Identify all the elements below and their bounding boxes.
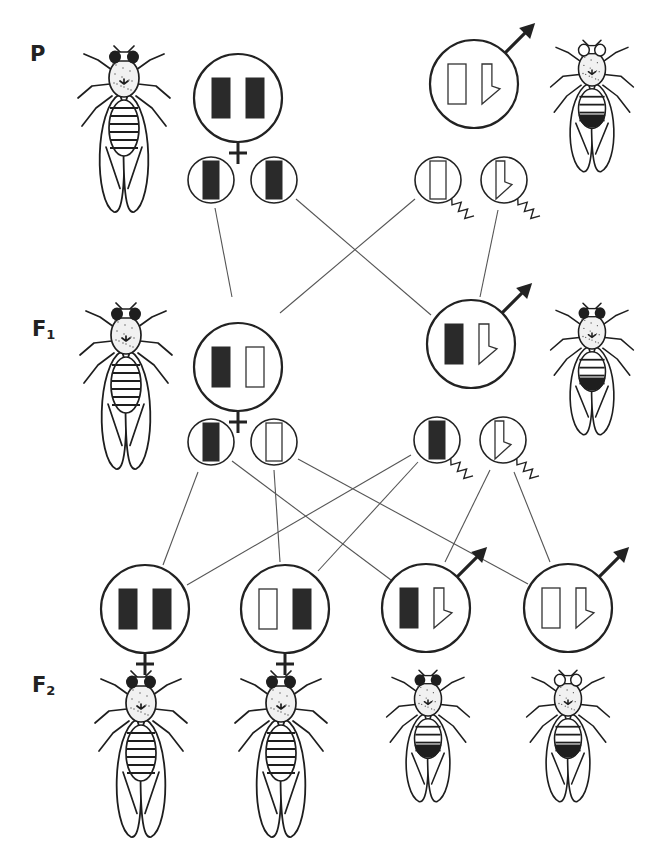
cross-diagram-canvas	[0, 0, 657, 859]
red-eye-icon	[111, 308, 123, 321]
egg-P-egg-2	[251, 157, 297, 203]
genotype-F1-female	[194, 323, 282, 433]
red-eye-icon	[144, 676, 156, 689]
genotype-circle	[194, 54, 282, 142]
female-symbol-icon	[229, 411, 247, 433]
sperm-P-sperm-2	[481, 157, 540, 218]
x-chromosome-white-allele	[266, 423, 282, 461]
sperm-tail-icon	[518, 198, 540, 218]
red-eye-icon	[129, 308, 141, 321]
white-eye-icon	[595, 44, 606, 56]
genotype-circle	[101, 565, 189, 653]
sperm-tail-icon	[451, 458, 473, 478]
generation-label-subscript: 1	[46, 327, 55, 342]
female-fly-red-eye-icon	[95, 671, 187, 837]
x-chromosome-red-allele	[246, 78, 264, 118]
female-fly-red-eye-icon	[235, 671, 327, 837]
male-symbol-arrow-icon	[505, 23, 535, 53]
x-chromosome-white-allele	[542, 588, 560, 628]
inheritance-line	[514, 472, 550, 562]
red-eye-icon	[579, 307, 590, 319]
generation-label-f2: F2	[32, 673, 55, 698]
male-fly-white-eye-icon	[551, 40, 634, 172]
x-chromosome-red-allele	[293, 589, 311, 629]
sperm-tail-icon	[517, 458, 539, 478]
x-chromosome-red-allele	[266, 161, 282, 199]
genotype-P-female	[194, 54, 282, 164]
genotype-P-male	[430, 23, 535, 128]
red-eye-icon	[284, 676, 296, 689]
generation-label-text: F	[32, 317, 46, 341]
male-fly-white-eye-icon	[527, 670, 610, 802]
genotype-F1-male	[427, 283, 532, 388]
white-eye-icon	[555, 674, 566, 686]
x-chromosome-red-allele	[212, 78, 230, 118]
x-chromosome-white-allele	[448, 64, 466, 104]
male-symbol-arrow-icon	[502, 283, 532, 313]
inheritance-line	[480, 210, 498, 297]
x-chromosome-white-allele	[246, 347, 264, 387]
genotype-circle	[524, 564, 612, 652]
generation-label-text: P	[30, 42, 45, 66]
sperm-tail-icon	[452, 198, 474, 218]
red-eye-icon	[595, 307, 606, 319]
male-fly-red-eye-icon	[551, 303, 634, 435]
male-symbol-arrow-icon	[457, 547, 487, 577]
x-chromosome-red-allele	[429, 421, 445, 459]
x-chromosome-red-allele	[400, 588, 418, 628]
genotype-circle	[427, 300, 515, 388]
red-eye-icon	[126, 676, 138, 689]
sperm-F1-sperm-2	[480, 417, 539, 478]
inheritance-line	[274, 470, 280, 562]
female-fly-red-eye-icon	[80, 303, 172, 469]
x-chromosome-red-allele	[445, 324, 463, 364]
genotype-circle	[430, 40, 518, 128]
egg-P-egg-1	[188, 157, 234, 203]
x-chromosome-white-allele	[430, 161, 446, 199]
inheritance-diagram: P F1 F2	[0, 0, 657, 859]
generation-label-subscript: 2	[46, 683, 55, 698]
generation-label-f1: F1	[32, 317, 55, 342]
genotype-F2-male-2	[524, 547, 629, 652]
inheritance-line	[232, 461, 391, 580]
red-eye-icon	[127, 51, 139, 64]
genotype-F2-male-1	[382, 547, 487, 652]
inheritance-line	[163, 472, 198, 565]
genotype-F2-female-1	[101, 565, 189, 675]
x-chromosome-red-allele	[119, 589, 137, 629]
red-eye-icon	[431, 674, 442, 686]
genotype-circle	[241, 565, 329, 653]
sperm-P-sperm-1	[415, 157, 474, 218]
fly-illustrations	[78, 40, 633, 837]
red-eye-icon	[415, 674, 426, 686]
inheritance-line	[280, 199, 415, 313]
red-eye-icon	[266, 676, 278, 689]
sperm-F1-sperm-1	[414, 417, 473, 478]
white-eye-icon	[571, 674, 582, 686]
inheritance-line	[187, 455, 411, 585]
female-symbol-icon	[229, 142, 247, 164]
genotype-circles	[101, 23, 629, 675]
x-chromosome-red-allele	[212, 347, 230, 387]
generation-label-text: F	[32, 673, 46, 697]
x-chromosome-red-allele	[153, 589, 171, 629]
x-chromosome-red-allele	[203, 423, 219, 461]
genotype-F2-female-2	[241, 565, 329, 675]
x-chromosome-red-allele	[203, 161, 219, 199]
red-eye-icon	[109, 51, 121, 64]
inheritance-line	[296, 199, 431, 315]
genotype-circle	[382, 564, 470, 652]
male-fly-red-eye-icon	[387, 670, 470, 802]
generation-label-p: P	[30, 42, 45, 67]
genotype-circle	[194, 323, 282, 411]
female-fly-red-eye-icon	[78, 46, 170, 212]
egg-F1-egg-1	[188, 419, 234, 465]
egg-F1-egg-2	[251, 419, 297, 465]
white-eye-icon	[579, 44, 590, 56]
x-chromosome-white-allele	[259, 589, 277, 629]
inheritance-line	[215, 208, 232, 297]
male-symbol-arrow-icon	[599, 547, 629, 577]
